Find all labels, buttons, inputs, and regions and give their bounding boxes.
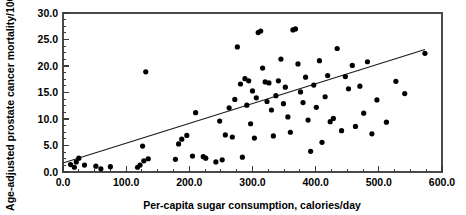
data-point	[76, 156, 81, 161]
data-point	[244, 103, 249, 108]
data-point	[369, 131, 374, 136]
data-point	[252, 135, 257, 140]
data-point	[223, 132, 228, 137]
data-point	[308, 149, 313, 154]
data-points	[68, 26, 428, 171]
data-point	[273, 93, 278, 98]
data-point	[311, 82, 316, 87]
x-tick-label: 200.0	[176, 176, 202, 188]
chart-figure: 0.05.010.015.020.025.030.0 0.0100.0200.0…	[0, 0, 466, 215]
data-point	[98, 166, 103, 171]
x-tick-label: 300.0	[239, 176, 265, 188]
data-point	[285, 114, 290, 119]
data-point	[93, 164, 98, 169]
y-tick-label: 20.0	[38, 60, 59, 72]
y-tick-label: 25.0	[38, 33, 59, 45]
data-point	[141, 158, 146, 163]
data-point	[357, 84, 362, 89]
data-point	[190, 154, 195, 159]
data-point	[325, 73, 330, 78]
data-point	[258, 28, 263, 33]
data-point	[339, 128, 344, 133]
data-point	[293, 26, 298, 31]
data-point	[335, 46, 340, 51]
data-point	[246, 78, 251, 83]
y-axis-tick-labels: 0.05.010.015.020.025.030.0	[38, 7, 59, 178]
data-point	[271, 133, 276, 138]
x-axis-tick-labels: 0.0100.0200.0300.0400.0500.0600.0	[56, 176, 456, 188]
data-point	[232, 97, 237, 102]
y-tick-label: 30.0	[38, 7, 59, 19]
y-axis-major-ticks	[63, 13, 69, 172]
data-point	[346, 86, 351, 91]
x-tick-label: 500.0	[366, 176, 392, 188]
data-point	[176, 141, 181, 146]
y-axis-label: Age-adjusted prostate cancer mortality/1…	[4, 0, 16, 211]
data-point	[402, 91, 407, 96]
data-point	[213, 159, 218, 164]
scatter-plot: 0.05.010.015.020.025.030.0 0.0100.0200.0…	[0, 0, 466, 215]
data-point	[260, 66, 265, 71]
x-tick-label: 400.0	[303, 176, 329, 188]
data-point	[146, 156, 151, 161]
data-point	[331, 116, 336, 121]
data-point	[108, 164, 113, 169]
data-point	[235, 44, 240, 49]
data-point	[374, 97, 379, 102]
data-point	[82, 163, 87, 168]
data-point	[319, 140, 324, 145]
data-point	[143, 69, 148, 74]
data-point	[278, 57, 283, 62]
data-point	[250, 88, 255, 93]
y-tick-label: 10.0	[38, 113, 59, 125]
x-tick-label: 600.0	[429, 176, 455, 188]
y-tick-label: 15.0	[38, 86, 59, 98]
data-point	[276, 78, 281, 83]
data-point	[220, 157, 225, 162]
y-tick-label: 5.0	[43, 139, 58, 151]
data-point	[305, 117, 310, 122]
data-point	[184, 133, 189, 138]
data-point	[227, 105, 232, 110]
x-tick-label: 100.0	[113, 176, 139, 188]
data-point	[203, 156, 208, 161]
data-point	[353, 124, 358, 129]
data-point	[230, 134, 235, 139]
data-point	[384, 120, 389, 125]
data-point	[269, 107, 274, 112]
x-axis-major-ticks	[63, 166, 442, 172]
data-point	[300, 100, 305, 105]
data-point	[298, 89, 303, 94]
data-point	[317, 58, 322, 63]
data-point	[422, 51, 427, 56]
data-point	[295, 61, 300, 66]
data-point	[350, 63, 355, 68]
data-point	[393, 79, 398, 84]
data-point	[303, 75, 308, 80]
data-point	[365, 59, 370, 64]
data-point	[288, 130, 293, 135]
data-point	[179, 137, 184, 142]
trend-line	[63, 50, 425, 163]
data-point	[283, 85, 288, 90]
data-point	[361, 111, 366, 116]
data-point	[217, 119, 222, 124]
data-point	[254, 95, 259, 100]
data-point	[72, 165, 77, 170]
data-point	[314, 105, 319, 110]
data-point	[240, 155, 245, 160]
data-point	[281, 101, 286, 106]
data-point	[140, 143, 145, 148]
data-point	[137, 163, 142, 168]
x-axis-label: Per-capita sugar consumption, calories/d…	[143, 199, 361, 211]
data-point	[264, 99, 269, 104]
x-tick-label: 0.0	[56, 176, 71, 188]
data-point	[343, 74, 348, 79]
data-point	[238, 81, 243, 86]
data-point	[173, 157, 178, 162]
data-point	[248, 121, 253, 126]
data-point	[323, 94, 328, 99]
data-point	[193, 110, 198, 115]
data-point	[266, 80, 271, 85]
